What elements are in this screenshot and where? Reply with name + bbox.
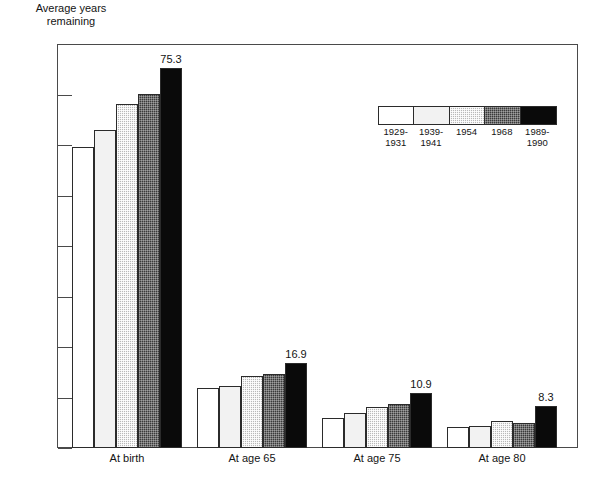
bar-value-label: 10.9 xyxy=(410,378,431,391)
y-axis-title: Average years remaining xyxy=(6,2,136,28)
bar[interactable] xyxy=(491,421,513,448)
bar[interactable] xyxy=(138,94,160,449)
bar-group: 10.9 xyxy=(322,44,432,448)
bar-group: 16.9 xyxy=(197,44,307,448)
bar[interactable] xyxy=(513,423,535,448)
bar[interactable]: 8.3 xyxy=(535,406,557,448)
bar[interactable] xyxy=(366,407,388,448)
bar[interactable] xyxy=(388,404,410,448)
bar[interactable] xyxy=(116,104,138,448)
legend-swatch[interactable] xyxy=(521,107,556,124)
bar-groups: 75.316.910.98.3 xyxy=(57,44,578,448)
legend: 1929- 19311939- 1941195419681989- 1990 xyxy=(378,106,557,148)
bar[interactable] xyxy=(322,418,344,448)
category-label-at-birth: At birth xyxy=(67,452,187,465)
bar[interactable] xyxy=(72,147,94,448)
bar[interactable] xyxy=(344,413,366,448)
bar[interactable] xyxy=(263,374,285,448)
bar-value-label: 16.9 xyxy=(285,348,306,361)
legend-entry-label: 1954 xyxy=(449,126,484,148)
bar[interactable]: 16.9 xyxy=(285,363,307,448)
category-label-at-age-65: At age 65 xyxy=(192,452,312,465)
page-footer-caption xyxy=(2,468,592,476)
legend-entry-label: 1939- 1941 xyxy=(413,126,448,148)
legend-entry-label: 1929- 1931 xyxy=(378,126,413,148)
bar[interactable] xyxy=(197,388,219,448)
bar[interactable] xyxy=(447,427,469,448)
bar-value-label: 75.3 xyxy=(160,53,181,66)
category-label-at-age-75: At age 75 xyxy=(317,452,437,465)
legend-swatch[interactable] xyxy=(379,107,414,124)
y-axis-tick-mark xyxy=(58,448,72,449)
legend-entry-label: 1968 xyxy=(484,126,519,148)
legend-labels: 1929- 19311939- 1941195419681989- 1990 xyxy=(378,126,557,148)
bar[interactable] xyxy=(94,130,116,448)
bar-group: 75.3 xyxy=(72,44,182,448)
legend-entry-label: 1989- 1990 xyxy=(520,126,555,148)
bar[interactable]: 10.9 xyxy=(410,393,432,448)
category-label-at-age-80: At age 80 xyxy=(442,452,562,465)
bar[interactable] xyxy=(219,386,241,448)
bar[interactable]: 75.3 xyxy=(160,68,182,448)
bar[interactable] xyxy=(241,376,263,448)
bar[interactable] xyxy=(469,426,491,448)
legend-swatch[interactable] xyxy=(450,107,485,124)
legend-swatch[interactable] xyxy=(414,107,449,124)
bar-group: 8.3 xyxy=(447,44,557,448)
legend-swatches xyxy=(378,106,557,125)
bar-value-label: 8.3 xyxy=(538,391,553,404)
legend-swatch[interactable] xyxy=(485,107,520,124)
